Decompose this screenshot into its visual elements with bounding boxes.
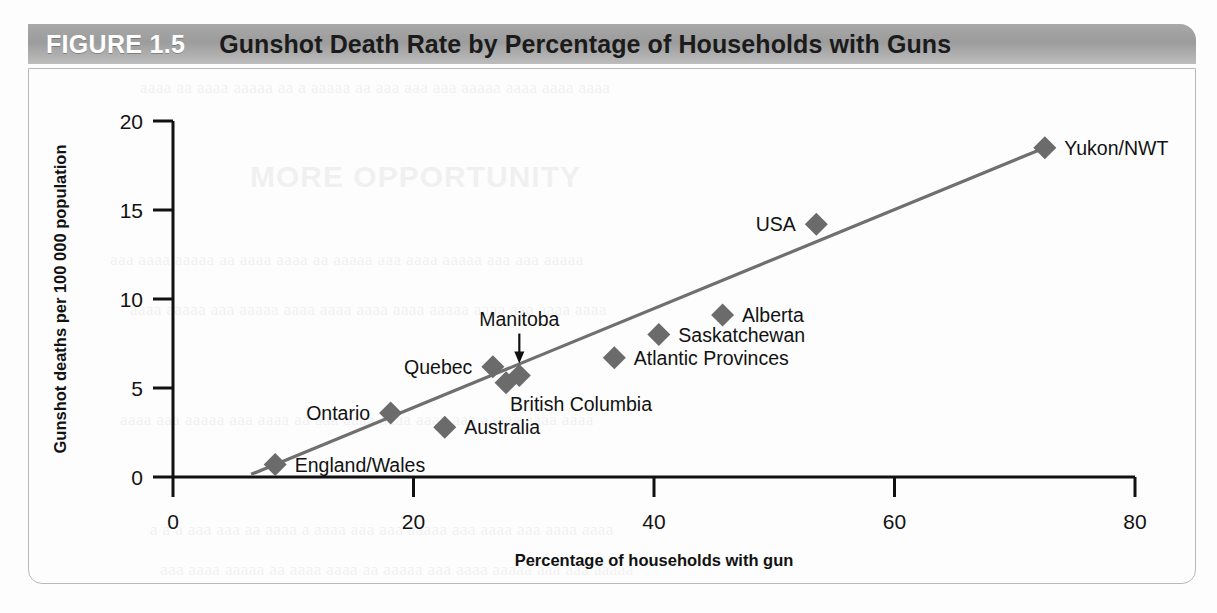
figure-body-panel: [28, 68, 1196, 584]
figure-title-bar: FIGURE 1.5 Gunshot Death Rate by Percent…: [28, 24, 1196, 64]
figure-number: FIGURE 1.5: [46, 30, 185, 59]
page-title: Gunshot Death Rate by Percentage of Hous…: [219, 30, 951, 59]
figure-root: a a a aaa aaa aa aaaa a aaaa aaa aaa aaa…: [0, 0, 1217, 613]
